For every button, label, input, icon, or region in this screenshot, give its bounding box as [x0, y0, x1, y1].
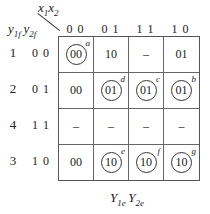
- table-cell: 00: [59, 73, 94, 109]
- column-variables: x1x2: [38, 0, 59, 18]
- table-cell: 10g: [164, 145, 199, 180]
- column-header: 0 0: [58, 22, 93, 37]
- table-cell: 01d: [94, 73, 129, 109]
- cell-tag: c: [156, 74, 160, 84]
- stable-state-circle: 01: [136, 80, 157, 101]
- cell-tag: f: [157, 146, 160, 156]
- stable-state-circle: 01: [101, 80, 122, 101]
- row-state: 1: [6, 45, 20, 61]
- cell-tag: g: [192, 146, 197, 156]
- table-cell: 10: [94, 37, 129, 73]
- flow-table-grid: 00a 10 – 01 00 01d 01c 01b – – – – 00 10…: [58, 36, 200, 181]
- cell-value: –: [143, 119, 149, 134]
- stable-state-circle: 00: [66, 44, 87, 65]
- table-cell: 00: [59, 145, 94, 180]
- row-code: 0 0: [26, 46, 56, 61]
- stable-state-circle: 01: [171, 80, 192, 101]
- row-variables: y1f y2f: [8, 21, 36, 39]
- output-variables-label: Y1e Y2e: [110, 190, 144, 208]
- stable-state-circle: 10: [101, 152, 122, 173]
- table-cell: –: [59, 109, 94, 145]
- column-header: 0 1: [93, 22, 128, 37]
- column-header: 1 1: [128, 22, 163, 37]
- table-cell: 10f: [129, 145, 164, 180]
- table-cell: –: [129, 109, 164, 145]
- table-cell: 10e: [94, 145, 129, 180]
- row-code: 1 0: [26, 154, 56, 169]
- cell-value: –: [108, 119, 114, 134]
- cell-value: 00: [70, 155, 82, 170]
- stable-state-circle: 10: [171, 152, 192, 173]
- table-cell: 01: [164, 37, 199, 73]
- table-cell: –: [129, 37, 164, 73]
- table-cell: 01b: [164, 73, 199, 109]
- row-code: 0 1: [26, 82, 56, 97]
- table-cell: –: [94, 109, 129, 145]
- cell-tag: e: [121, 146, 125, 156]
- table-cell: –: [164, 109, 199, 145]
- cell-tag: a: [86, 38, 91, 48]
- cell-tag: b: [192, 74, 197, 84]
- row-code: 1 1: [26, 118, 56, 133]
- stable-state-circle: 10: [136, 152, 157, 173]
- table-cell: 01c: [129, 73, 164, 109]
- cell-value: 01: [176, 47, 188, 62]
- cell-value: –: [179, 119, 185, 134]
- column-header: 1 0: [163, 22, 198, 37]
- cell-value: 10: [105, 47, 117, 62]
- cell-tag: d: [121, 74, 126, 84]
- cell-value: –: [143, 47, 149, 62]
- row-state: 2: [6, 81, 20, 97]
- row-state: 3: [6, 153, 20, 169]
- cell-value: 00: [70, 83, 82, 98]
- cell-value: –: [73, 119, 79, 134]
- row-state: 4: [6, 117, 20, 133]
- table-cell: 00a: [59, 37, 94, 73]
